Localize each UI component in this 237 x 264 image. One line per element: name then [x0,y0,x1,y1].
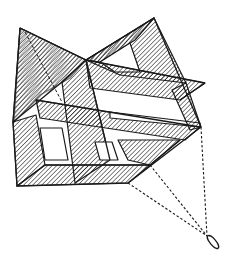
kite-illustration [0,0,237,264]
right-lower-panel [118,140,180,165]
kite-panels [13,18,205,186]
bridle-loop [206,234,221,250]
kite-drawing [0,0,237,264]
